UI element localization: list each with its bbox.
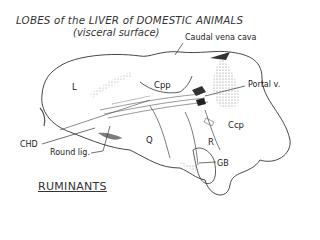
species-footer: RUMINANTS [38, 180, 107, 193]
lobe-quadrate: Q [146, 135, 153, 145]
lobe-left: L [72, 82, 77, 92]
label-round-lig: Round lig. [50, 148, 90, 157]
lobe-caudate-papillary: Cpp [154, 80, 171, 90]
label-caudal-vena-cava: Caudal vena cava [185, 33, 256, 42]
label-gb: GB [217, 159, 229, 168]
liver-outline [42, 51, 290, 195]
label-portal-vein: Portal v. [248, 80, 280, 89]
lobe-right: R [208, 137, 214, 147]
label-chd: CHD [20, 140, 38, 149]
lobe-caudate-process: Ccp [228, 120, 244, 130]
